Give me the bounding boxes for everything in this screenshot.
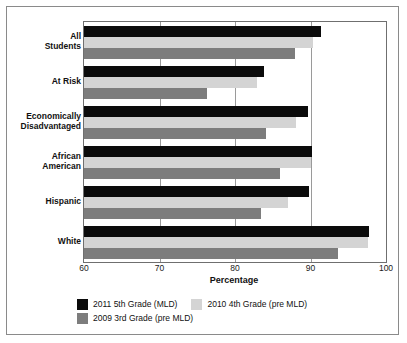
- category-label: AfricanAmerican: [7, 151, 81, 171]
- category-label-line: White: [7, 236, 81, 246]
- bar: [84, 37, 313, 48]
- bar: [84, 77, 257, 88]
- x-tick-label-100: 100: [379, 263, 393, 273]
- x-axis-title: Percentage: [83, 275, 385, 285]
- bar: [84, 168, 280, 179]
- plot-area: [83, 21, 387, 263]
- bar: [84, 48, 295, 59]
- x-tick-label-80: 80: [230, 263, 239, 273]
- bar: [84, 208, 261, 219]
- category-label: White: [7, 236, 81, 246]
- category-label-line: At Risk: [7, 76, 81, 86]
- chart-legend: 2011 5th Grade (MLD) 2010 4th Grade (pre…: [77, 299, 387, 327]
- legend-item-2009[interactable]: 2009 3rd Grade (pre MLD): [77, 313, 193, 324]
- legend-label-2009: 2009 3rd Grade (pre MLD): [93, 313, 193, 324]
- plot-wrapper: AllStudentsAt RiskEconomicallyDisadvanta…: [7, 7, 400, 270]
- legend-swatch-2010: [191, 299, 202, 310]
- x-tick-label-70: 70: [155, 263, 164, 273]
- category-axis-labels: AllStudentsAt RiskEconomicallyDisadvanta…: [7, 21, 81, 261]
- legend-row: 2009 3rd Grade (pre MLD): [77, 313, 387, 324]
- bar: [84, 117, 296, 128]
- bar: [84, 146, 312, 157]
- bar: [84, 106, 308, 117]
- category-label: At Risk: [7, 76, 81, 86]
- bar: [84, 26, 321, 37]
- bar: [84, 237, 368, 248]
- bar: [84, 88, 207, 99]
- bar: [84, 66, 264, 77]
- category-label-line: All: [7, 31, 81, 41]
- bar: [84, 226, 369, 237]
- bar: [84, 197, 288, 208]
- category-label-line: Economically: [7, 111, 81, 121]
- legend-swatch-2009: [77, 313, 88, 324]
- category-label: Hispanic: [7, 196, 81, 206]
- legend-swatch-2011: [77, 299, 88, 310]
- category-label: AllStudents: [7, 31, 81, 51]
- legend-item-2010[interactable]: 2010 4th Grade (pre MLD): [191, 299, 307, 310]
- legend-label-2010: 2010 4th Grade (pre MLD): [207, 299, 307, 310]
- x-tick-label-90: 90: [306, 263, 315, 273]
- bar: [84, 157, 311, 168]
- bar: [84, 186, 309, 197]
- x-axis-ticks: 60708090100: [83, 263, 387, 275]
- category-label-line: Students: [7, 41, 81, 51]
- bar: [84, 248, 338, 259]
- bar: [84, 128, 266, 139]
- x-tick-label-60: 60: [79, 263, 88, 273]
- category-label: EconomicallyDisadvantaged: [7, 111, 81, 131]
- category-label-line: Hispanic: [7, 196, 81, 206]
- legend-row: 2011 5th Grade (MLD) 2010 4th Grade (pre…: [77, 299, 387, 310]
- chart-frame: AllStudentsAt RiskEconomicallyDisadvanta…: [6, 6, 399, 335]
- legend-item-2011[interactable]: 2011 5th Grade (MLD): [77, 299, 177, 310]
- legend-label-2011: 2011 5th Grade (MLD): [93, 299, 177, 310]
- category-label-line: American: [7, 161, 81, 171]
- category-label-line: African: [7, 151, 81, 161]
- category-label-line: Disadvantaged: [7, 121, 81, 131]
